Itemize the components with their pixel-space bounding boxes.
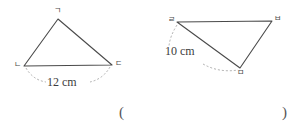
triangle-gnd-outline (24, 19, 112, 66)
vertex-label-bottom-left-left-triangle: ㄴ (14, 61, 21, 69)
answer-input-area[interactable] (128, 104, 278, 120)
vertex-label-bottom-right-left-triangle: ㄷ (115, 60, 122, 68)
measure-label-10cm: 10 cm (165, 45, 195, 57)
measure-arc-right-end (203, 64, 238, 71)
vertex-label-top-left-triangle: ㄱ (54, 7, 61, 15)
vertex-label-top-left-right-triangle: ㄹ (168, 16, 175, 24)
measure-arc-left-end (90, 67, 110, 82)
measure-arc-right-start (169, 25, 177, 46)
answer-close-paren: ) (282, 105, 287, 120)
left-triangle-shape (24, 19, 112, 66)
vertex-label-top-right-right-triangle: ㅂ (274, 15, 281, 23)
vertex-label-bottom-right-triangle: ㅁ (237, 69, 244, 77)
measure-arc-left-start (26, 68, 46, 82)
answer-open-paren: ( (119, 105, 124, 120)
measure-label-12cm: 12 cm (47, 76, 77, 88)
